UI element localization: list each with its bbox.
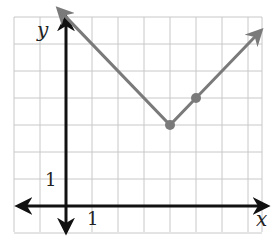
- grid: [14, 17, 262, 233]
- curve-line: [58, 9, 261, 125]
- vertex-point: [165, 120, 175, 130]
- y-tick-label-1: 1: [45, 169, 56, 190]
- x-axis-label: x: [256, 207, 267, 231]
- point-point: [191, 93, 201, 103]
- x-tick-label-1: 1: [87, 208, 98, 229]
- absolute-value-curve: [58, 9, 261, 130]
- coordinate-plane: y x 1 1: [0, 0, 271, 237]
- y-axis-label: y: [36, 18, 49, 42]
